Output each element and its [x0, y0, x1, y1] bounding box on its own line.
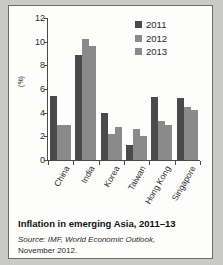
bar-chart: (%) 024681012 ChinaIndiaKoreaTaiwanHong … [9, 6, 212, 211]
caption-source-line-2: November 2012. [18, 246, 203, 257]
legend-entry: 2013 [135, 47, 167, 57]
figure-card: (%) 024681012 ChinaIndiaKoreaTaiwanHong … [8, 5, 213, 259]
bar [101, 113, 108, 160]
chart-legend: 201120122013 [135, 20, 167, 57]
legend-entry: 2011 [135, 20, 167, 30]
bar-group [48, 18, 73, 160]
bar [133, 129, 140, 160]
bar [191, 110, 198, 160]
y-tick-mark [44, 42, 48, 43]
bar [126, 145, 133, 160]
x-tick-label: Singapore [170, 164, 198, 203]
y-tick-mark [44, 89, 48, 90]
legend-swatch-icon [135, 21, 142, 28]
bar [82, 39, 89, 160]
bar-group [73, 18, 98, 160]
plot-frame [47, 18, 200, 161]
caption-source-line-1: Source: IMF, World Economic Outlook, [18, 235, 203, 246]
x-tick-label: Taiwan [125, 164, 147, 192]
x-tick-label: China [52, 164, 72, 188]
bar [57, 125, 64, 161]
legend-label: 2012 [146, 34, 167, 44]
bar [50, 96, 57, 160]
bar-group [99, 18, 124, 160]
bar [151, 97, 158, 160]
bar [158, 121, 165, 160]
caption-title: Inflation in emerging Asia, 2011–13 [18, 218, 203, 230]
bar [140, 136, 147, 160]
bar-group [175, 18, 200, 160]
x-tick-label: Hong Kong [143, 164, 173, 206]
bar [64, 125, 71, 161]
x-tick-label: Korea [102, 164, 122, 189]
legend-swatch-icon [135, 35, 142, 42]
legend-label: 2011 [146, 20, 166, 30]
bar [108, 134, 115, 160]
bar [184, 107, 191, 160]
y-tick-mark [44, 65, 48, 66]
bar [165, 125, 172, 161]
legend-entry: 2012 [135, 34, 167, 44]
x-tick-label: India [79, 164, 97, 185]
caption-block: Inflation in emerging Asia, 2011–13 Sour… [9, 211, 212, 256]
y-tick-mark [44, 18, 48, 19]
bar [115, 127, 122, 160]
y-axis-tick-labels: 024681012 [23, 18, 45, 160]
y-tick-mark [44, 113, 48, 114]
x-axis-tick-labels: ChinaIndiaKoreaTaiwanHong KongSingapore [47, 164, 199, 210]
bar [177, 98, 184, 160]
bar [75, 55, 82, 160]
bar [89, 46, 96, 160]
legend-swatch-icon [135, 48, 142, 55]
x-tick-mark [200, 161, 201, 165]
plot-area [48, 18, 200, 160]
legend-label: 2013 [146, 47, 167, 57]
y-tick-mark [44, 136, 48, 137]
